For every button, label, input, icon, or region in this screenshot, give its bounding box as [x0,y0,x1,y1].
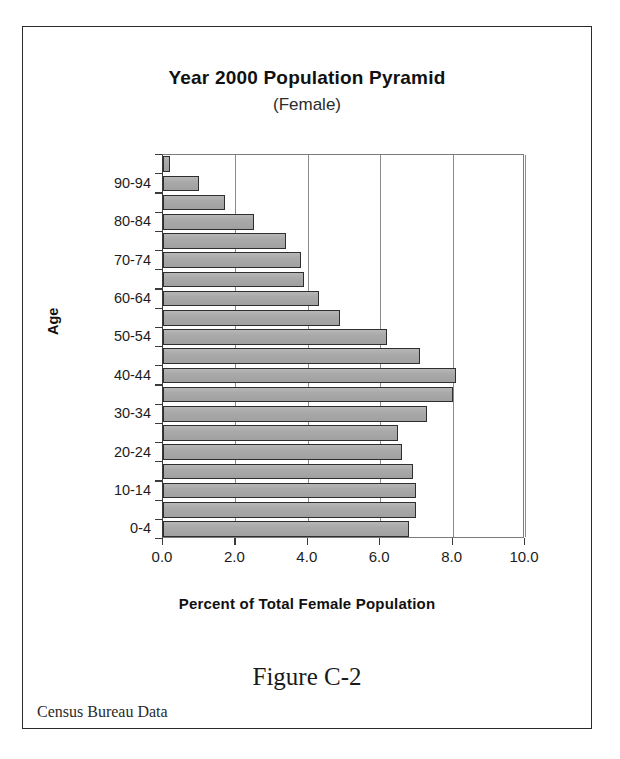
y-axis-tick [155,327,162,328]
source-note: Census Bureau Data [37,703,168,721]
bar [163,502,416,518]
y-axis-tick-labels: 90-9480-8470-7460-6450-5440-4430-3420-24… [73,154,151,538]
y-axis-tick-label: 60-64 [114,290,151,306]
y-axis-tick [155,308,162,309]
chart-subtitle: (Female) [23,95,591,115]
y-axis-tick [155,173,162,174]
x-axis-tick-label: 10.0 [509,548,538,565]
y-axis-tick-label: 10-14 [114,482,151,498]
bar [163,291,319,307]
y-axis-tick [155,346,162,347]
y-axis-tick [155,384,162,385]
bar [163,348,420,364]
x-axis-tick [452,538,453,545]
y-axis-tick [155,288,162,289]
y-axis-tick-label: 30-34 [114,405,151,421]
y-axis-tick [155,442,162,443]
y-axis-tick-label: 20-24 [114,444,151,460]
y-axis-tick [155,231,162,232]
gridline [525,155,526,537]
y-axis-ticks [154,154,162,538]
y-axis-tick-label: 70-74 [114,252,151,268]
bar [163,252,301,268]
y-axis-tick [155,480,162,481]
figure-caption: Figure C-2 [23,663,591,691]
x-axis-tick-label: 4.0 [296,548,317,565]
bar [163,272,304,288]
x-axis-title: Percent of Total Female Population [23,595,591,612]
bar [163,406,427,422]
y-axis-tick-label: 50-54 [114,328,151,344]
y-axis-title: Age [45,308,61,335]
x-axis-tick-label: 8.0 [441,548,462,565]
x-axis-ticks [162,538,524,546]
x-axis-tick [379,538,380,545]
bar [163,156,170,172]
y-axis-tick [155,250,162,251]
bar-series [163,155,523,537]
y-axis-tick [155,154,162,155]
bar [163,176,199,192]
x-axis-tick-label: 6.0 [369,548,390,565]
x-axis-tick [307,538,308,545]
x-axis-tick [234,538,235,545]
bar [163,214,254,230]
y-axis-tick [155,192,162,193]
y-axis-tick [155,519,162,520]
y-axis-tick-label: 90-94 [114,175,151,191]
bar [163,195,225,211]
chart-title: Year 2000 Population Pyramid [23,67,591,89]
x-axis-tick-labels: 0.02.04.06.08.010.0 [162,548,524,570]
y-axis-tick [155,538,162,539]
y-axis-tick [155,461,162,462]
y-axis-tick [155,423,162,424]
bar [163,329,387,345]
bar [163,444,402,460]
y-axis-tick-label: 40-44 [114,367,151,383]
bar [163,233,286,249]
x-axis-tick [162,538,163,545]
bar [163,425,398,441]
bar [163,368,456,384]
x-axis-tick [524,538,525,545]
y-axis-tick-label: 80-84 [114,213,151,229]
y-axis-tick [155,500,162,501]
y-axis-tick [155,365,162,366]
bar [163,310,340,326]
figure-frame: Year 2000 Population Pyramid (Female) 90… [22,26,592,729]
plot-area [162,154,524,538]
bar [163,387,453,403]
y-axis-tick [155,269,162,270]
bar [163,521,409,537]
x-axis-tick-label: 0.0 [152,548,173,565]
y-axis-tick [155,212,162,213]
bar [163,483,416,499]
bar [163,464,413,480]
x-axis-tick-label: 2.0 [224,548,245,565]
y-axis-tick-label: 0-4 [130,520,151,536]
y-axis-tick [155,404,162,405]
